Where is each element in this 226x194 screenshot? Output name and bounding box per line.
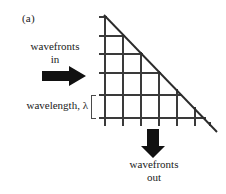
wavefront-figure: (a) wavefronts in wavelength, λ wavefron… xyxy=(0,0,226,194)
arrow-right-icon xyxy=(42,66,86,86)
arrow-down-icon xyxy=(141,129,165,158)
bracket-left-icon xyxy=(91,95,96,118)
wavefront-grid-graphic xyxy=(0,0,226,194)
